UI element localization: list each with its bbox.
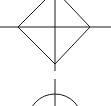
diagram-canvas (0, 0, 111, 106)
diamond-shape (18, 0, 90, 64)
